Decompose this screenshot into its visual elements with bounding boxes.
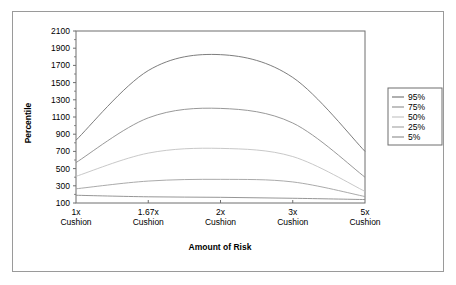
legend-label-95pct: 95%: [408, 92, 425, 102]
percentile-vs-risk-line-chart: 100300500700900110013001500170019002100 …: [0, 0, 456, 285]
y-tick-label: 300: [56, 181, 70, 191]
x-tick-label-value: 1x: [72, 207, 82, 217]
legend-label-75pct: 75%: [408, 102, 425, 112]
x-tick-label-unit: Cushion: [205, 217, 236, 227]
y-tick-label: 1100: [52, 112, 71, 122]
y-axis-tick-labels: 100300500700900110013001500170019002100: [51, 26, 70, 208]
plot-area-frame: [76, 31, 365, 203]
legend-label-50pct: 50%: [408, 112, 425, 122]
y-axis-title: Percentile: [23, 102, 33, 143]
x-axis-title: Amount of Risk: [189, 242, 252, 252]
y-tick-label: 700: [56, 146, 70, 156]
x-tick-label-unit: Cushion: [277, 217, 308, 227]
legend-label-25pct: 25%: [408, 122, 425, 132]
x-tick-label-value: 1.67x: [138, 207, 160, 217]
y-axis-ticks: [73, 31, 76, 203]
y-tick-label: 900: [56, 129, 70, 139]
y-tick-label: 1700: [51, 60, 70, 70]
legend: 95%75%50%25%5%: [388, 88, 442, 145]
y-tick-label: 2100: [51, 26, 70, 36]
x-tick-label-value: 3x: [288, 207, 298, 217]
y-tick-label: 500: [56, 164, 70, 174]
y-tick-label: 100: [56, 198, 70, 208]
x-tick-label-value: 5x: [361, 207, 371, 217]
x-axis-tick-labels: 1xCushion1.67xCushion2xCushion3xCushion5…: [60, 207, 380, 227]
y-tick-label: 1300: [51, 95, 70, 105]
x-tick-label-unit: Cushion: [60, 217, 91, 227]
x-tick-label-unit: Cushion: [349, 217, 380, 227]
y-tick-label: 1500: [51, 78, 70, 88]
legend-label-5pct: 5%: [408, 132, 421, 142]
x-tick-label-value: 2x: [216, 207, 226, 217]
x-tick-label-unit: Cushion: [133, 217, 164, 227]
chart-figure: 100300500700900110013001500170019002100 …: [0, 0, 456, 285]
y-tick-label: 1900: [51, 43, 70, 53]
